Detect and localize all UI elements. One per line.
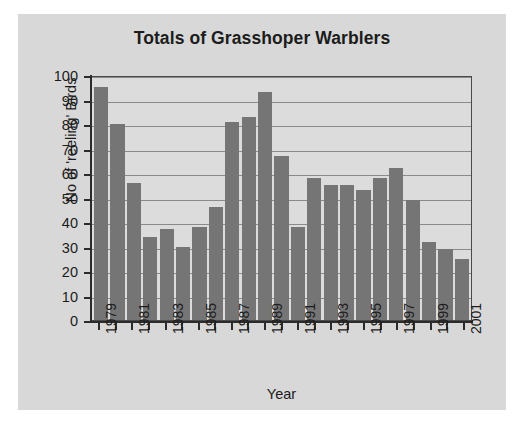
- y-axis-tick-label: 20: [28, 265, 78, 280]
- bar: [225, 122, 239, 320]
- x-axis-tick: [396, 323, 398, 330]
- x-axis-tick: [430, 323, 432, 330]
- bar: [356, 190, 370, 320]
- x-axis-tick: [463, 323, 465, 330]
- bar: [258, 92, 272, 320]
- bar: [242, 117, 256, 320]
- x-axis-tick: [198, 323, 200, 330]
- y-axis-tick: [84, 272, 91, 274]
- bar: [127, 183, 141, 320]
- plot-area: [91, 76, 472, 321]
- x-axis-tick: [363, 323, 365, 330]
- x-axis-tick: [264, 323, 266, 330]
- bar: [110, 124, 124, 320]
- x-axis-tick-label: 2001: [469, 303, 483, 334]
- y-axis-tick: [84, 125, 91, 127]
- bar: [324, 185, 338, 320]
- y-axis-tick-label: 0: [28, 314, 78, 329]
- x-axis-tick-label: 1985: [204, 303, 218, 334]
- y-axis-tick-label: 10: [28, 290, 78, 305]
- y-axis-tick: [84, 297, 91, 299]
- x-axis-tick-label: 1999: [436, 303, 450, 334]
- y-axis-title: No of 'reeling' Birds: [63, 15, 79, 265]
- chart-title: Totals of Grasshoper Warblers: [18, 28, 506, 49]
- bar: [422, 242, 436, 320]
- y-axis-tick: [84, 248, 91, 250]
- bar: [274, 156, 288, 320]
- x-axis-tick: [98, 323, 100, 330]
- bar: [307, 178, 321, 320]
- x-axis-tick-label: 1991: [303, 303, 317, 334]
- bar: [340, 185, 354, 320]
- bar: [94, 87, 108, 320]
- y-axis-tick: [84, 223, 91, 225]
- x-axis-tick-label: 1995: [369, 303, 383, 334]
- x-axis-tick: [231, 323, 233, 330]
- x-axis-tick: [165, 323, 167, 330]
- x-axis-tick-label: 1989: [270, 303, 284, 334]
- x-axis-tick-label: 1983: [171, 303, 185, 334]
- x-axis-tick-label: 1993: [336, 303, 350, 334]
- chart-figure: Totals of Grasshoper Warblers 1009080706…: [18, 14, 506, 410]
- x-axis-tick-label: 1981: [137, 303, 151, 334]
- bar-series: [92, 77, 471, 320]
- y-axis-tick: [84, 76, 91, 78]
- bar: [455, 259, 469, 320]
- y-axis-tick: [84, 174, 91, 176]
- y-axis-tick: [84, 150, 91, 152]
- x-axis-title: Year: [91, 386, 472, 402]
- x-axis-tick-label: 1997: [402, 303, 416, 334]
- x-axis-tick: [131, 323, 133, 330]
- bar: [389, 168, 403, 320]
- x-axis-tick-label: 1979: [104, 303, 118, 334]
- bar: [373, 178, 387, 320]
- x-axis-tick: [330, 323, 332, 330]
- x-axis-tick: [297, 323, 299, 330]
- x-axis-tick-label: 1987: [237, 303, 251, 334]
- y-axis-tick: [84, 199, 91, 201]
- y-axis-tick: [84, 101, 91, 103]
